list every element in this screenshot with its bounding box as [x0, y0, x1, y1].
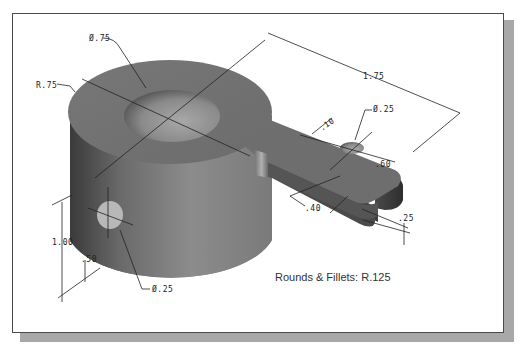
dim-side-hole-diameter: Ø.25	[152, 284, 173, 294]
rounds-fillets-note: Rounds & Fillets: R.125	[275, 271, 391, 283]
boss-top	[68, 60, 272, 164]
dim-boss-radius: R.75	[36, 81, 57, 90]
dim-arm-thickness: .25	[398, 214, 414, 223]
dim-boss-height: 1.00	[52, 238, 73, 247]
dim-top-hole-diameter: Ø.75	[89, 33, 110, 43]
dim-arm-hole-offset: .10	[318, 116, 336, 133]
dim-arm-hole-diameter: Ø.25	[373, 104, 394, 114]
side-hole	[97, 201, 123, 229]
dim-arm-slot-depth: .40	[305, 204, 321, 213]
dim-arm-width: .60	[375, 160, 391, 169]
dim-side-hole-height: .50	[81, 255, 97, 264]
dim-overall-length: 1.75	[363, 72, 384, 81]
isometric-part-drawing: Ø.75 R.75 1.75 Ø.25 .10 .60 .40 .25 1.00…	[0, 0, 521, 357]
